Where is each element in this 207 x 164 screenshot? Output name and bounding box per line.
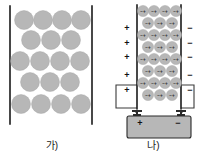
- polarized-molecule: −+: [159, 77, 170, 88]
- panel-a-caption: 가): [0, 140, 104, 152]
- plate-plus-sign: +: [124, 23, 129, 33]
- molecule: [72, 95, 91, 114]
- molecule: [31, 52, 50, 71]
- polarized-molecule: −+: [170, 29, 181, 40]
- plate-minus-sign: −: [187, 70, 192, 80]
- battery-positive-label: +: [137, 118, 142, 128]
- panel-b-drawing: + + + + + − − − − − −+ −+ −+: [100, 0, 207, 140]
- polarized-molecule: −+: [170, 77, 181, 88]
- svg-text:−+: −+: [162, 57, 168, 62]
- polarized-molecule: −+: [154, 41, 165, 52]
- molecule: [32, 95, 51, 114]
- molecule: [15, 11, 34, 30]
- polarized-molecule: −+: [142, 41, 153, 52]
- polarized-molecule: −+: [142, 17, 153, 28]
- plate-minus-sign: −: [187, 85, 192, 95]
- svg-text:−+: −+: [173, 33, 179, 38]
- polarized-molecule: −+: [142, 65, 153, 76]
- polarized-molecule: −+: [148, 53, 159, 64]
- panel-a-molecule-row: [11, 52, 90, 71]
- physics-diagram-dielectric-polarization: 가) + + + + +: [0, 0, 207, 164]
- panel-b-molecule-row: −+ −+ −+ −+: [137, 29, 181, 40]
- svg-text:−+: −+: [151, 33, 157, 38]
- molecule: [22, 31, 41, 50]
- panel-b-molecule-row: −+ −+ −+ −+: [137, 77, 181, 88]
- polarized-molecule: −+: [159, 29, 170, 40]
- molecule: [52, 95, 71, 114]
- polarized-molecule: −+: [166, 17, 177, 28]
- svg-text:−+: −+: [140, 81, 146, 86]
- plate-plus-sign: +: [124, 38, 129, 48]
- svg-text:−+: −+: [173, 57, 179, 62]
- polarized-molecule: −+: [154, 89, 165, 100]
- svg-text:−+: −+: [157, 93, 163, 98]
- molecule: [72, 11, 91, 30]
- panel-b-caption: 나): [100, 140, 207, 152]
- svg-text:−+: −+: [151, 9, 157, 14]
- panel-b-molecule-row: −+ −+ −+ −+: [137, 53, 181, 64]
- molecule: [11, 52, 30, 71]
- plate-minus-sign: −: [187, 23, 192, 33]
- polarized-molecule: −+: [166, 41, 177, 52]
- panel-b-molecule-row: −+ −+ −+: [142, 17, 177, 28]
- polarized-molecule: −+: [142, 89, 153, 100]
- polarized-molecule: −+: [137, 29, 148, 40]
- svg-text:−+: −+: [162, 33, 168, 38]
- panel-b-container: + + + + + − − − − − −+ −+ −+: [100, 0, 207, 164]
- battery: + −: [127, 110, 191, 138]
- molecule: [12, 95, 31, 114]
- polarized-molecule: −+: [166, 89, 177, 100]
- svg-text:−+: −+: [151, 57, 157, 62]
- polarized-molecule: −+: [159, 5, 170, 16]
- polarized-molecule: −+: [170, 5, 181, 16]
- svg-text:−+: −+: [140, 9, 146, 14]
- right-plate-charge-group: − − − − −: [187, 23, 192, 95]
- svg-text:−+: −+: [145, 69, 151, 74]
- plate-minus-sign: −: [187, 38, 192, 48]
- battery-negative-label: −: [175, 118, 180, 128]
- panel-b-molecule-field: −+ −+ −+ −+ −+ −+ −+ −+ −+ −+ −+: [137, 5, 181, 100]
- polarized-molecule: −+: [137, 77, 148, 88]
- svg-text:−+: −+: [169, 93, 175, 98]
- polarized-molecule: −+: [137, 53, 148, 64]
- panel-b-molecule-row: −+ −+ −+ −+: [137, 5, 181, 16]
- molecule: [71, 52, 90, 71]
- svg-text:−+: −+: [145, 45, 151, 50]
- plate-plus-sign: +: [124, 52, 129, 62]
- svg-text:−+: −+: [157, 45, 163, 50]
- panel-b-molecule-row: −+ −+ −+: [142, 41, 177, 52]
- svg-text:−+: −+: [169, 21, 175, 26]
- svg-text:−+: −+: [145, 21, 151, 26]
- panel-a-molecule-row: [12, 95, 91, 114]
- panel-b-molecule-row: −+ −+ −+: [142, 89, 177, 100]
- svg-text:−+: −+: [169, 45, 175, 50]
- plate-minus-sign: −: [187, 52, 192, 62]
- molecule: [34, 11, 53, 30]
- svg-text:−+: −+: [169, 69, 175, 74]
- svg-text:−+: −+: [145, 93, 151, 98]
- panel-a-molecule-row: [15, 11, 91, 30]
- molecule: [42, 31, 61, 50]
- panel-a-molecule-row: [22, 31, 81, 50]
- polarized-molecule: −+: [154, 17, 165, 28]
- polarized-molecule: −+: [159, 53, 170, 64]
- panel-a-container: 가): [0, 0, 104, 164]
- panel-a-molecule-row: [21, 73, 80, 92]
- left-plate-charge-group: + + + + +: [124, 23, 129, 95]
- polarized-molecule: −+: [148, 5, 159, 16]
- svg-text:−+: −+: [173, 9, 179, 14]
- polarized-molecule: −+: [148, 77, 159, 88]
- svg-text:−+: −+: [162, 9, 168, 14]
- svg-text:−+: −+: [157, 21, 163, 26]
- svg-text:−+: −+: [140, 57, 146, 62]
- svg-text:−+: −+: [162, 81, 168, 86]
- molecule: [53, 11, 72, 30]
- polarized-molecule: −+: [154, 65, 165, 76]
- polarized-molecule: −+: [166, 65, 177, 76]
- polarized-molecule: −+: [170, 53, 181, 64]
- polarized-molecule: −+: [148, 29, 159, 40]
- molecule: [21, 73, 40, 92]
- svg-text:−+: −+: [151, 81, 157, 86]
- plate-plus-sign: +: [124, 70, 129, 80]
- molecule: [41, 73, 60, 92]
